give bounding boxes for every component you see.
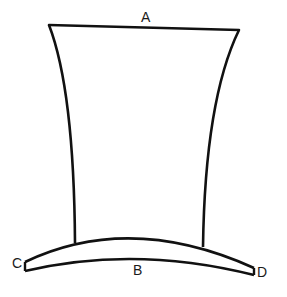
crown-top-edge <box>49 25 239 30</box>
top-hat-diagram <box>0 0 287 297</box>
label-c: C <box>12 256 22 270</box>
label-b: B <box>133 263 142 277</box>
crown-right-side <box>203 30 239 247</box>
label-a: A <box>141 10 150 24</box>
label-d: D <box>257 265 267 279</box>
crown-left-side <box>49 25 75 243</box>
